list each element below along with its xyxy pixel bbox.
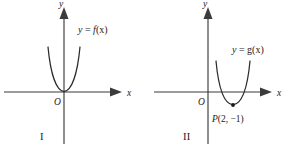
x-axis-label-panel-two: x bbox=[276, 88, 282, 98]
function-label-panel-two: y = g(x) bbox=[231, 44, 264, 56]
panel-number-label-one: I bbox=[40, 131, 44, 142]
panel-one: y x O y = f(x) I bbox=[0, 0, 149, 149]
function-label-eq-panel-two: = bbox=[236, 44, 247, 55]
point-label-coords-panel-two: (2, −1) bbox=[218, 114, 244, 125]
parabola-curve-panel-two bbox=[216, 61, 250, 105]
panel-two: y x O y = g(x) P(2, −1) II bbox=[150, 0, 299, 149]
function-label-arg-panel-one: (x) bbox=[96, 24, 108, 36]
point-label-panel-two: P(2, −1) bbox=[211, 114, 244, 125]
function-label-eq-panel-one: = bbox=[82, 24, 93, 35]
figure-root: y x O y = f(x) I y x O y = g(x) bbox=[0, 0, 299, 149]
vertex-point-marker-panel-two bbox=[231, 103, 235, 107]
origin-label-panel-two: O bbox=[198, 97, 205, 107]
x-axis-arrow-panel-one bbox=[110, 88, 122, 97]
y-axis-label-panel-two: y bbox=[202, 0, 208, 9]
function-label-panel-one: y = f(x) bbox=[77, 24, 108, 36]
y-axis-label-panel-one: y bbox=[58, 0, 64, 9]
x-axis-arrow-panel-two bbox=[260, 88, 272, 97]
panel-number-label-two: II bbox=[183, 131, 191, 142]
x-axis-label-panel-one: x bbox=[126, 88, 132, 98]
function-label-arg-panel-two: (x) bbox=[252, 44, 264, 56]
origin-label-panel-one: O bbox=[54, 97, 61, 107]
